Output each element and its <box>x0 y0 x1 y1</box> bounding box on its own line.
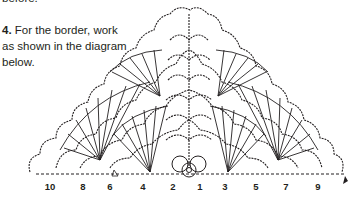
row-label-3: 3 <box>222 181 227 192</box>
row-label-4: 4 <box>140 181 145 192</box>
row-labels: 10 8 6 4 2 1 3 5 7 9 <box>0 0 353 200</box>
row-label-7: 7 <box>283 181 288 192</box>
row-label-9: 9 <box>315 181 320 192</box>
row-label-6: 6 <box>107 181 112 192</box>
row-label-5: 5 <box>253 181 258 192</box>
row-label-8: 8 <box>80 181 85 192</box>
row-label-2: 2 <box>170 181 175 192</box>
row-label-10: 10 <box>45 181 56 192</box>
row-label-1: 1 <box>197 181 202 192</box>
